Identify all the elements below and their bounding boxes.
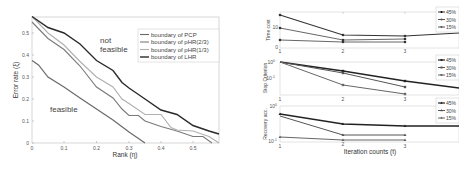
left-chart: 0 0.1 0.2 0.3 0.4 0.5 0 0.1 0.2 0.3 0.4 … — [12, 17, 219, 160]
legend-label-phr-1-3: boundary of pHR(1/3) — [151, 47, 209, 53]
p2-xtick-3: 3 — [404, 96, 407, 102]
p2-xtick-1: 1 — [279, 96, 282, 102]
left-ytick-4: 0.4 — [22, 52, 29, 58]
right-x-axis-label: Iteration counts (t) — [344, 148, 396, 156]
p3-legend-15: 15% — [446, 115, 457, 121]
p3-legend-45: 45% — [446, 100, 457, 106]
left-ytick-2: 0.2 — [22, 96, 29, 102]
left-xtick-5: 0.5 — [190, 145, 197, 151]
p1-ytick-0: 0 — [275, 44, 278, 50]
p2-xtick-2: 2 — [342, 96, 345, 102]
p2-legend-30: 30% — [446, 65, 457, 71]
annotation-not-feasible: feasible — [100, 45, 128, 54]
p1-legend: 45% 30% 15% — [436, 7, 459, 32]
p3-y-axis-label: Recovery acc. — [262, 108, 268, 140]
subplot-1-area — [280, 12, 459, 48]
p1-legend-30: 30% — [446, 17, 457, 23]
p1-legend-15: 15% — [446, 24, 457, 30]
left-ytick-0: 0 — [26, 140, 29, 146]
figure: 0 0.1 0.2 0.3 0.4 0.5 0 0.1 0.2 0.3 0.4 … — [0, 0, 459, 175]
left-xtick-1: 0.1 — [61, 145, 68, 151]
p1-xtick-3: 3 — [404, 48, 407, 54]
left-ytick-5: 0.5 — [22, 30, 29, 36]
subplot-time-cost: 1 2 3 0 10 Time cost 45% 30% 15% — [265, 7, 459, 54]
p1-y-axis-label: Time cost — [265, 19, 271, 41]
left-y-axis-label: Error rate (ξ) — [12, 62, 20, 99]
subplot-stop-criterion: 1 2 3 100 10-1 Stop Criterion 45% 30% 1 — [262, 55, 459, 102]
left-xtick-2: 0.2 — [93, 145, 100, 151]
legend-label-phr-2-3: boundary of pHR(2/3) — [151, 39, 209, 45]
p2-legend: 45% 30% 15% — [436, 55, 459, 80]
subplot-recovery-acc: 1 2 3 100 10-1 Recovery acc. 45% 30% — [262, 98, 459, 156]
p3-legend-30: 30% — [446, 108, 457, 114]
left-xtick-4: 0.4 — [158, 145, 165, 151]
left-ytick-3: 0.3 — [22, 74, 29, 80]
p3-xtick-1: 1 — [279, 143, 282, 149]
left-legend: boundary of PCP boundary of pHR(2/3) bou… — [138, 29, 219, 62]
p1-xtick-1: 1 — [279, 48, 282, 54]
p2-legend-15: 15% — [446, 72, 457, 78]
p3-xtick-3: 3 — [404, 143, 407, 149]
p1-legend-45: 45% — [446, 9, 457, 15]
p3-legend: 45% 30% 15% — [436, 98, 459, 123]
p1-ytick-10: 10 — [272, 24, 278, 30]
left-xtick-0: 0 — [31, 145, 34, 151]
p1-xtick-2: 2 — [342, 48, 345, 54]
p2-legend-45: 45% — [446, 57, 457, 63]
annotation-not: not — [100, 36, 112, 45]
p2-y-axis-label: Stop Criterion — [262, 63, 268, 94]
right-chart: 1 2 3 0 10 Time cost 45% 30% 15% — [262, 7, 459, 156]
left-x-axis-label: Rank (η) — [113, 151, 138, 159]
annotation-feasible: feasible — [50, 105, 78, 114]
p3-xtick-2: 2 — [342, 141, 345, 147]
p3-ytick-bot: 10-1 — [268, 138, 277, 144]
left-ytick-1: 0.1 — [22, 118, 29, 124]
p2-ytick-top: 100 — [267, 59, 275, 65]
legend-label-pcp: boundary of PCP — [151, 32, 197, 38]
legend-label-lhr: boundary of LHR — [151, 54, 197, 60]
p3-ytick-top: 100 — [269, 103, 277, 109]
